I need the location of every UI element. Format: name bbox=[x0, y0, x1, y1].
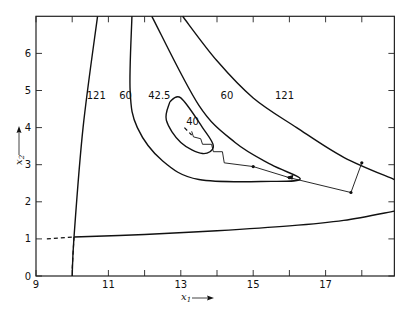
y-tick-label: 5 bbox=[25, 85, 31, 96]
contour-level-label: 121 bbox=[275, 90, 294, 101]
x-tick-label: 9 bbox=[33, 279, 39, 290]
path-point bbox=[349, 191, 352, 194]
search-path bbox=[192, 131, 364, 194]
contour-level-label: 60 bbox=[119, 90, 132, 101]
x-axis-label: x1 bbox=[181, 291, 191, 304]
contour-level-label: 42.5 bbox=[148, 90, 170, 101]
axis-labels: x1 x2 bbox=[13, 126, 214, 304]
y-tick-label: 6 bbox=[25, 48, 31, 59]
y-tick-label: 0 bbox=[25, 271, 31, 282]
dashed-lines bbox=[47, 128, 192, 269]
contour-level-label: 60 bbox=[221, 90, 234, 101]
contour-lines bbox=[72, 16, 394, 276]
path-point bbox=[252, 165, 255, 168]
search-path-line bbox=[192, 131, 362, 192]
x-tick-label: 11 bbox=[102, 279, 115, 290]
path-point bbox=[360, 161, 363, 164]
x-tick-label: 13 bbox=[174, 279, 187, 290]
y-tick-label: 4 bbox=[25, 122, 31, 133]
x-axis-arrowhead-icon bbox=[207, 296, 214, 301]
contour-level-label: 40 bbox=[186, 116, 199, 127]
y-tick-label: 2 bbox=[25, 196, 31, 207]
x-tick-label: 15 bbox=[247, 279, 260, 290]
contour-level-label: 121 bbox=[87, 90, 106, 101]
contour-line bbox=[74, 211, 394, 237]
contour-chart: 9111315170123456 1216042.56012140 x1 x2 bbox=[0, 0, 417, 313]
y-axis-arrowhead-icon bbox=[17, 126, 22, 133]
x-tick-label: 17 bbox=[319, 279, 332, 290]
dashed-line bbox=[184, 128, 191, 135]
y-tick-label: 1 bbox=[25, 233, 31, 244]
dashed-line bbox=[47, 237, 74, 239]
y-tick-label: 3 bbox=[25, 159, 31, 170]
